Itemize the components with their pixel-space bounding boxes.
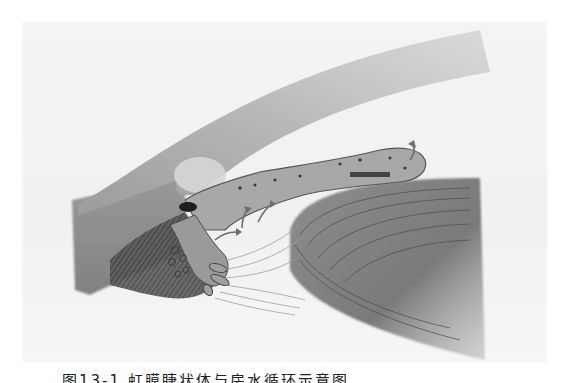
schlemm-canal — [179, 202, 197, 212]
figure-caption: 图13-1 虹膜睫状体与房水循环示意图 — [62, 371, 349, 383]
eye-angle-diagram — [0, 0, 565, 383]
anatomical-illustration: 图13-1 虹膜睫状体与房水循环示意图 — [0, 0, 565, 383]
lens — [290, 178, 485, 360]
